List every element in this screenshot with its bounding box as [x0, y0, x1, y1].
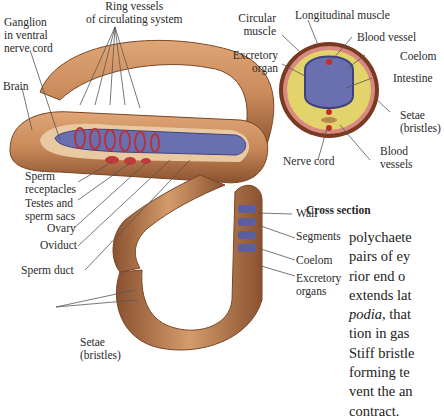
- cross-section-diagram: [279, 42, 379, 138]
- body-text-line: contract.: [349, 402, 414, 420]
- label-sperm-duct: Sperm duct: [21, 264, 74, 277]
- label-brain: Brain: [3, 80, 29, 93]
- label-ovary: Ovary: [47, 222, 76, 235]
- label-line: organ: [226, 62, 278, 75]
- label-line: Excretory: [296, 272, 341, 285]
- body-text-line: vent the an: [349, 382, 414, 401]
- label-line: Setae: [80, 336, 121, 349]
- cross-section-caption: Cross section: [306, 204, 371, 216]
- label-nerve-cord: Nerve cord: [283, 155, 334, 168]
- label-circular-muscle: Circular muscle: [224, 12, 276, 38]
- label-line: of circulating system: [86, 13, 182, 26]
- body-text: polychaete pairs of ey rior end o extend…: [349, 228, 414, 420]
- label-excretory-organs: Excretory organs: [296, 272, 341, 298]
- label-line: receptacles: [25, 183, 76, 196]
- label-blood-vessels: Blood vessels: [380, 145, 413, 171]
- label-line: (bristles): [400, 122, 441, 135]
- body-text-fragment: that: [389, 306, 411, 322]
- label-line: muscle: [224, 25, 276, 38]
- label-line: Setae: [400, 109, 441, 122]
- label-line: organs: [296, 285, 341, 298]
- body-text-line: forming te: [349, 363, 414, 382]
- label-ring-vessels: Ring vessels of circulating system: [86, 0, 182, 26]
- label-excretory-organ: Excretory organ: [226, 49, 278, 75]
- label-setae: Setae (bristles): [80, 336, 121, 362]
- label-oviduct: Oviduct: [40, 239, 77, 252]
- label-line: Ganglion: [4, 16, 53, 29]
- label-blood-vessel: Blood vessel: [357, 31, 416, 44]
- label-sperm-receptacles: Sperm receptacles: [25, 170, 76, 196]
- label-segments: Segments: [296, 230, 341, 243]
- label-line: Blood: [380, 145, 413, 158]
- body-text-line: podia, that: [349, 305, 414, 324]
- body-text-line: rior end o: [349, 267, 414, 286]
- label-line: Testes and: [25, 197, 75, 210]
- label-line: (bristles): [80, 349, 121, 362]
- label-line: vessels: [380, 158, 413, 171]
- label-line: in ventral: [4, 29, 53, 42]
- body-text-line: extends lat: [349, 286, 414, 305]
- label-ganglion: Ganglion in ventral nerve cord: [4, 16, 53, 55]
- label-cs-setae: Setae (bristles): [400, 109, 441, 135]
- italic-term: podia,: [349, 306, 386, 322]
- label-line: Sperm: [25, 170, 76, 183]
- body-text-line: Stiff bristle: [349, 344, 414, 363]
- label-line: Circular: [224, 12, 276, 25]
- label-coelom: Coelom: [296, 254, 332, 267]
- label-testes: Testes and sperm sacs: [25, 197, 75, 223]
- label-line: Excretory: [226, 49, 278, 62]
- body-text-line: pairs of ey: [349, 247, 414, 266]
- label-line: nerve cord: [4, 42, 53, 55]
- label-line: Ring vessels: [86, 0, 182, 13]
- label-longitudinal-muscle: Longitudinal muscle: [295, 9, 390, 22]
- body-text-line: tion in gas: [349, 324, 414, 343]
- body-text-line: polychaete: [349, 228, 414, 247]
- label-intestine: Intestine: [393, 72, 433, 85]
- label-cs-coelom: Coelom: [400, 50, 436, 63]
